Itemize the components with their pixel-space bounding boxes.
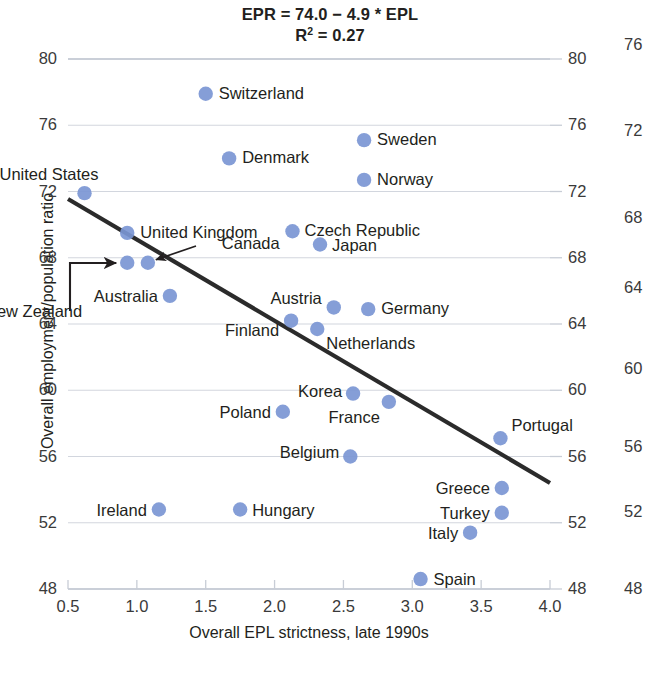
y-axis-tick-right: 52 (568, 513, 608, 532)
y-axis-tick-left: 52 (17, 513, 57, 532)
data-point-label: United States (0, 166, 99, 183)
data-point-label: New Zealand (0, 303, 82, 320)
y-axis-tick-right: 60 (568, 380, 608, 399)
data-point-label: Canada (222, 235, 280, 252)
data-point-label: Austria (270, 290, 321, 307)
y-axis-tick-far-right: 72 (624, 121, 660, 140)
y-axis-tick-far-right: 64 (624, 278, 660, 297)
data-point-label: Greece (436, 480, 490, 497)
y-axis-tick-right: 48 (568, 579, 608, 598)
scatter-plot-figure: EPR = 74.0 − 4.9 * EPL R2 = 0.27 Overall… (0, 0, 660, 680)
data-point-label: France (329, 409, 380, 426)
data-point-marker[interactable] (222, 151, 236, 165)
data-point-marker[interactable] (343, 449, 357, 463)
data-point-label: Sweden (377, 131, 437, 148)
data-point-marker[interactable] (77, 186, 91, 200)
x-axis-tick: 0.5 (45, 597, 91, 616)
x-axis-tick: 2.0 (252, 597, 298, 616)
y-axis-tick-left: 48 (17, 579, 57, 598)
data-point-label: Italy (428, 525, 458, 542)
right-tick-marks-group (550, 59, 562, 589)
y-axis-tick-far-right: 56 (624, 437, 660, 456)
data-point-marker[interactable] (382, 395, 396, 409)
data-point-marker[interactable] (361, 302, 375, 316)
y-axis-tick-right: 64 (568, 314, 608, 333)
data-point-label: Portugal (511, 417, 572, 434)
y-axis-tick-right: 76 (568, 115, 608, 134)
data-point-marker[interactable] (141, 256, 155, 270)
data-point-marker[interactable] (327, 300, 341, 314)
y-axis-tick-left: 56 (17, 447, 57, 466)
y-axis-tick-left: 76 (17, 115, 57, 134)
data-point-label: Germany (381, 300, 449, 317)
data-point-marker[interactable] (120, 256, 134, 270)
data-point-marker[interactable] (357, 133, 371, 147)
x-axis-tick: 1.5 (183, 597, 229, 616)
data-point-marker[interactable] (152, 502, 166, 516)
data-point-label: Netherlands (326, 335, 415, 352)
data-point-label: Turkey (440, 505, 490, 522)
y-axis-tick-left: 80 (17, 49, 57, 68)
data-point-label: Belgium (280, 444, 340, 461)
y-axis-tick-far-right: 76 (624, 35, 660, 54)
y-axis-tick-right: 80 (568, 49, 608, 68)
data-point-label: Ireland (96, 502, 146, 519)
data-point-marker[interactable] (284, 313, 298, 327)
y-axis-tick-far-right: 60 (624, 359, 660, 378)
data-point-label: Japan (332, 237, 377, 254)
y-axis-tick-far-right: 48 (624, 579, 660, 598)
data-point-label: Australia (94, 288, 158, 305)
data-point-label: Switzerland (219, 85, 304, 102)
data-point-marker[interactable] (199, 87, 213, 101)
x-axis-tick: 1.0 (114, 597, 160, 616)
x-axis-tick: 3.5 (458, 597, 504, 616)
data-point-label: Poland (219, 404, 270, 421)
data-point-marker[interactable] (120, 226, 134, 240)
data-point-label: Spain (434, 571, 476, 588)
y-axis-tick-left: 68 (17, 248, 57, 267)
data-point-label: Finland (225, 322, 279, 339)
x-axis-tick: 2.5 (320, 597, 366, 616)
data-point-label: Korea (298, 383, 342, 400)
y-axis-tick-right: 56 (568, 447, 608, 466)
data-point-marker[interactable] (493, 431, 507, 445)
y-axis-tick-far-right: 68 (624, 208, 660, 227)
data-point-label: Hungary (252, 502, 314, 519)
data-point-marker[interactable] (276, 405, 290, 419)
data-point-marker[interactable] (233, 502, 247, 516)
data-point-marker[interactable] (313, 237, 327, 251)
y-axis-tick-left: 60 (17, 380, 57, 399)
data-point-label: Norway (377, 171, 433, 188)
data-point-marker[interactable] (310, 322, 324, 336)
data-point-marker[interactable] (357, 173, 371, 187)
y-axis-tick-left: 72 (17, 182, 57, 201)
data-point-marker[interactable] (495, 481, 509, 495)
data-point-label: Denmark (242, 149, 309, 166)
data-point-marker[interactable] (413, 572, 427, 586)
data-point-marker[interactable] (463, 525, 477, 539)
y-axis-tick-far-right: 52 (624, 502, 660, 521)
data-point-marker[interactable] (495, 506, 509, 520)
x-tick-marks-group (68, 580, 550, 589)
data-point-marker[interactable] (285, 224, 299, 238)
data-point-marker[interactable] (163, 289, 177, 303)
y-axis-tick-right: 72 (568, 182, 608, 201)
y-axis-tick-right: 68 (568, 248, 608, 267)
regression-line (68, 199, 550, 483)
x-axis-tick: 3.0 (389, 597, 435, 616)
data-point-marker[interactable] (346, 386, 360, 400)
x-axis-tick: 4.0 (527, 597, 573, 616)
